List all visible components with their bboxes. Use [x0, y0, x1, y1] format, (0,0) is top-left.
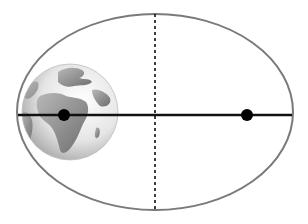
- focus-dot-empty: [241, 109, 253, 121]
- focus-dot-earth: [58, 109, 70, 121]
- orbit-diagram: [0, 0, 308, 224]
